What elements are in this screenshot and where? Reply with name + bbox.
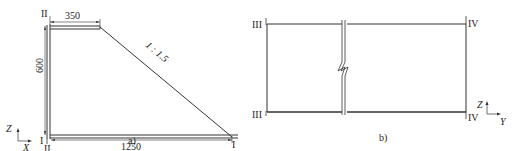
slope-ratio-label: 1 : 1.5 (144, 39, 171, 64)
section-label-I-left: I (40, 135, 43, 146)
slope-line (100, 27, 232, 137)
dim-350-arrow-left (50, 21, 54, 23)
axis-z-label-b: Z (477, 99, 483, 110)
dim-1250-arrow-left (51, 139, 55, 141)
section-label-I-right: I (232, 139, 235, 150)
dim-350-label: 350 (65, 10, 80, 21)
break-symbol (338, 20, 348, 115)
axis-z-label: Z (6, 123, 12, 134)
dim-600-arrow-bottom (44, 131, 46, 135)
figure-a-labels: II 350 600 1 : 1.5 1250 I I II a) Z X (6, 8, 235, 151)
section-label-II-bottom: II (44, 143, 51, 151)
axis-y-label-b: Y (500, 116, 507, 127)
axis-z-arrowhead-b (486, 101, 489, 105)
dim-350-arrow-right (96, 21, 100, 23)
axis-z-arrowhead (17, 128, 20, 132)
section-label-III-top: III (252, 19, 262, 30)
engineering-diagram: II 350 600 1 : 1.5 1250 I I II a) Z X a) (0, 0, 513, 151)
dim-600-label: 600 (34, 58, 45, 73)
section-label-III-bottom: III (252, 109, 262, 120)
section-label-IV-top: IV (468, 18, 479, 29)
caption-a-visible: a) (128, 135, 136, 147)
section-label-IV-bottom: IV (468, 112, 479, 123)
figure-a-cross-section (17, 16, 239, 144)
caption-b: b) (379, 132, 387, 144)
figure-b-plan-view (266, 16, 501, 119)
axis-x-label: X (22, 142, 30, 151)
dim-600-arrow-top (44, 26, 46, 30)
figure-b-labels: III III IV IV b) Z Y (252, 18, 507, 144)
section-label-II-top: II (41, 8, 48, 19)
